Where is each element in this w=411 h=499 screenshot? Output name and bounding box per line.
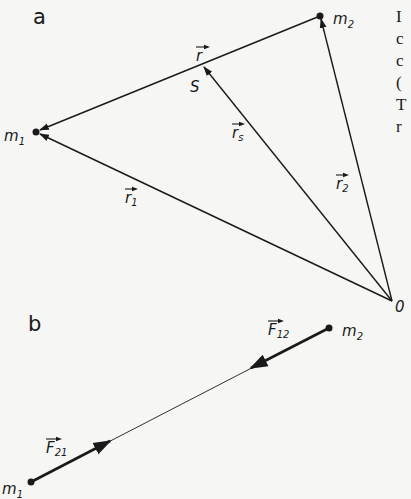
clipped-char: T xyxy=(396,94,411,116)
m1-label-b: m1 xyxy=(2,480,23,499)
svg-text:rs: rs xyxy=(232,124,243,143)
mass-m1-dot-b xyxy=(28,479,35,486)
m2-label-b: m2 xyxy=(342,322,363,342)
panel-b-label: b xyxy=(28,312,41,336)
svg-text:F21: F21 xyxy=(46,439,67,458)
force-f12-label: F12 xyxy=(268,321,289,340)
clipped-body-text: I c c ( T r xyxy=(396,6,411,138)
panel-a-label: a xyxy=(33,5,46,29)
vector-r1-label: r1 xyxy=(125,189,138,208)
vector-r2-line xyxy=(321,19,392,301)
svg-text:r1: r1 xyxy=(125,189,138,208)
center-of-mass-label: S xyxy=(190,78,200,96)
clipped-char: ( xyxy=(396,72,411,94)
svg-text:r: r xyxy=(196,47,203,65)
panel-b: b m1 m2 F21 F12 xyxy=(2,312,363,499)
clipped-char: I xyxy=(396,6,411,28)
vector-r-line xyxy=(40,16,320,130)
svg-text:F12: F12 xyxy=(268,321,289,340)
clipped-char: c xyxy=(396,50,411,72)
clipped-char: r xyxy=(396,116,411,138)
force-f12-line xyxy=(251,328,329,368)
vector-rs-line xyxy=(204,67,392,301)
clipped-char: c xyxy=(396,28,411,50)
origin-label: 0 xyxy=(395,298,405,316)
m2-label: m2 xyxy=(333,10,354,30)
vector-r1-line xyxy=(40,134,392,301)
mass-m1-dot xyxy=(33,129,40,136)
vector-r2-label: r2 xyxy=(336,175,349,194)
mass-m2-dot-b xyxy=(326,325,333,332)
force-f21-line xyxy=(31,441,110,482)
two-body-vector-diagram: a m1 m2 S 0 r rs r1 r2 xyxy=(0,0,411,499)
m1-label: m1 xyxy=(4,127,25,147)
mass-m2-dot xyxy=(317,13,324,20)
force-f21-label: F21 xyxy=(46,439,67,458)
panel-a: a m1 m2 S 0 r rs r1 r2 xyxy=(4,5,405,316)
svg-text:r2: r2 xyxy=(336,175,349,194)
vector-rs-label: rs xyxy=(232,124,243,143)
